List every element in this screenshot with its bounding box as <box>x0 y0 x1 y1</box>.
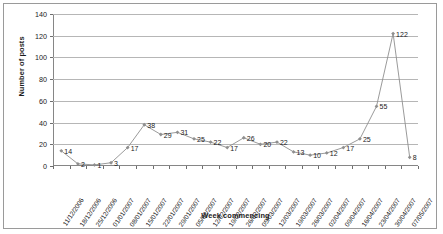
chart-frame: Number of posts 020406080100120140 11/12… <box>3 3 437 229</box>
data-point-marker <box>391 32 395 36</box>
data-point-marker <box>258 142 262 146</box>
data-point-label: 14 <box>64 148 72 155</box>
data-point-label: 22 <box>280 139 288 146</box>
data-point-label: 17 <box>230 145 238 152</box>
x-tick-mark <box>236 166 237 169</box>
data-point-label: 38 <box>147 122 155 129</box>
data-point-label: 25 <box>363 136 371 143</box>
data-point-marker <box>325 151 329 155</box>
x-tick-mark <box>103 166 104 169</box>
data-point-marker <box>159 133 163 137</box>
x-tick-mark <box>86 166 87 169</box>
x-tick-mark <box>153 166 154 169</box>
data-point-label: 2 <box>81 161 85 168</box>
x-tick-mark <box>53 166 54 169</box>
y-axis-title: Number of posts <box>17 7 26 127</box>
x-tick-mark <box>269 166 270 169</box>
data-point-label: 122 <box>396 31 408 38</box>
x-tick-mark <box>252 166 253 169</box>
data-point-label: 22 <box>214 139 222 146</box>
data-point-marker <box>358 137 362 141</box>
data-point-label: 29 <box>164 132 172 139</box>
data-point-marker <box>93 163 97 167</box>
y-tick-label: 140 <box>35 10 47 19</box>
data-point-label: 1 <box>97 162 101 169</box>
y-tick-label: 20 <box>39 140 47 149</box>
data-point-marker <box>292 150 296 154</box>
plot-area: 020406080100120140 11/12/200618/12/20062… <box>53 14 418 166</box>
x-tick-mark <box>285 166 286 169</box>
x-tick-mark <box>202 166 203 169</box>
data-point-marker <box>408 155 412 159</box>
x-tick-mark <box>302 166 303 169</box>
x-tick-mark <box>368 166 369 169</box>
data-point-label: 26 <box>247 135 255 142</box>
data-point-marker <box>275 140 279 144</box>
x-tick-mark <box>401 166 402 169</box>
data-point-label: 3 <box>114 160 118 167</box>
x-tick-mark <box>418 166 419 169</box>
data-point-label: 8 <box>413 154 417 161</box>
x-tick-mark <box>169 166 170 169</box>
data-point-label: 17 <box>131 145 139 152</box>
x-tick-mark <box>186 166 187 169</box>
y-tick-label: 100 <box>35 53 47 62</box>
y-tick-label: 80 <box>39 75 47 84</box>
data-point-marker <box>192 137 196 141</box>
y-tick-label: 40 <box>39 118 47 127</box>
data-point-label: 17 <box>346 145 354 152</box>
data-point-marker <box>308 153 312 157</box>
data-point-label: 25 <box>197 136 205 143</box>
x-tick-mark <box>219 166 220 169</box>
data-point-marker <box>375 104 379 108</box>
data-point-label: 10 <box>313 152 321 159</box>
x-tick-mark <box>385 166 386 169</box>
x-tick-mark <box>318 166 319 169</box>
data-point-label: 13 <box>297 149 305 156</box>
data-point-marker <box>209 140 213 144</box>
x-tick-mark <box>352 166 353 169</box>
x-tick-mark <box>70 166 71 169</box>
data-point-label: 55 <box>380 103 388 110</box>
data-point-marker <box>176 130 180 134</box>
chart-plot-container: Number of posts 020406080100120140 11/12… <box>6 6 434 226</box>
line-series <box>53 14 418 166</box>
data-point-marker <box>242 136 246 140</box>
data-point-label: 12 <box>330 150 338 157</box>
y-tick-label: 60 <box>39 96 47 105</box>
data-point-label: 20 <box>263 141 271 148</box>
y-tick-label: 0 <box>43 162 47 171</box>
x-tick-mark <box>119 166 120 169</box>
x-tick-mark <box>335 166 336 169</box>
data-point-marker <box>341 146 345 150</box>
x-axis-title: Week commencing <box>53 211 418 220</box>
x-tick-mark <box>136 166 137 169</box>
data-point-marker <box>225 146 229 150</box>
data-point-label: 31 <box>180 129 188 136</box>
y-tick-label: 120 <box>35 31 47 40</box>
